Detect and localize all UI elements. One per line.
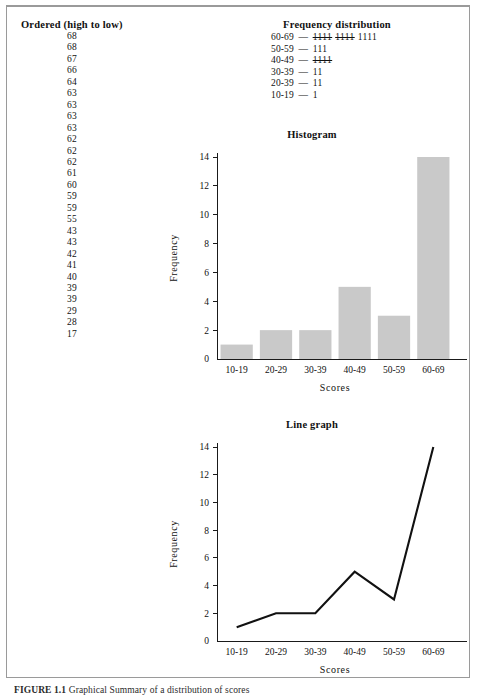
frequency-bin-label: 10-19 xyxy=(271,90,294,100)
histogram-bar xyxy=(221,345,253,359)
histogram-bar xyxy=(299,330,331,359)
histogram-bar xyxy=(339,287,371,359)
ordered-scores-title: Ordered (high to low) xyxy=(21,19,201,30)
line-graph-chart: Line graph 02468101214Frequency10-1920-2… xyxy=(157,419,467,681)
ordered-score-item: 66 xyxy=(67,65,201,76)
tally-remainder: 1111 xyxy=(358,32,378,42)
frequency-row-dash: — xyxy=(294,78,313,88)
y-tick-label: 14 xyxy=(200,152,210,162)
x-tick-label: 20-29 xyxy=(265,647,287,657)
x-tick-label: 50-59 xyxy=(383,365,405,375)
frequency-row-dash: — xyxy=(294,67,313,77)
frequency-distribution-row: 30-39 — 11 xyxy=(271,67,461,79)
frequency-distribution-row: 20-39 — 11 xyxy=(271,78,461,90)
x-axis-title: Scores xyxy=(320,664,350,675)
frequency-row-dash: — xyxy=(294,44,313,54)
ordered-score-item: 67 xyxy=(67,54,201,65)
x-tick-label: 10-19 xyxy=(226,647,248,657)
tally-group-of-five: 1111 xyxy=(313,55,333,65)
y-axis-title: Frequency xyxy=(168,520,179,568)
frequency-distribution-rows: 60-69 — 11111111111150-59 — 11140-49 — 1… xyxy=(221,32,461,102)
tally-group-of-five: 1111 xyxy=(313,32,333,42)
frequency-distribution-row: 50-59 — 111 xyxy=(271,44,461,56)
x-tick-label: 30-39 xyxy=(304,647,326,657)
x-tick-label: 10-19 xyxy=(226,365,248,375)
x-tick-label: 60-69 xyxy=(422,365,444,375)
tally-remainder: 111 xyxy=(313,44,328,54)
histogram-chart: Histogram 02468101214Frequency10-1920-29… xyxy=(157,129,467,399)
line-graph-series xyxy=(237,447,434,627)
y-tick-label: 6 xyxy=(204,268,209,278)
x-tick-label: 40-49 xyxy=(344,365,366,375)
tally-group-of-five: 1111 xyxy=(335,32,355,42)
y-tick-label: 6 xyxy=(204,553,209,563)
ordered-score-item: 68 xyxy=(67,42,201,53)
frequency-bin-label: 30-39 xyxy=(271,67,294,77)
y-tick-label: 10 xyxy=(200,210,210,220)
y-axis-title: Frequency xyxy=(168,234,179,282)
y-tick-label: 12 xyxy=(200,181,210,191)
figure-caption-label: FIGURE 1.1 xyxy=(14,685,66,695)
frequency-distribution-row: 60-69 — 111111111111 xyxy=(271,32,461,44)
tally-remainder: 1 xyxy=(313,90,318,100)
ordered-score-item: 63 xyxy=(67,111,201,122)
frequency-distribution-row: 10-19 — 1 xyxy=(271,90,461,102)
tally-remainder: 11 xyxy=(313,78,323,88)
y-tick-label: 12 xyxy=(200,470,210,480)
line-graph-plot: 02468101214Frequency10-1920-2930-3940-49… xyxy=(157,419,467,681)
y-tick-label: 2 xyxy=(204,326,209,336)
histogram-bar xyxy=(378,316,410,359)
y-tick-label: 0 xyxy=(204,354,209,364)
frequency-bin-label: 40-49 xyxy=(271,55,294,65)
figure-page-frame: Ordered (high to low) 686867666463636363… xyxy=(6,5,470,678)
figure-caption: FIGURE 1.1 Graphical Summary of a distri… xyxy=(14,684,464,696)
frequency-distribution-column: Frequency distribution 60-69 — 111111111… xyxy=(221,19,461,102)
x-tick-label: 20-29 xyxy=(265,365,287,375)
y-tick-label: 8 xyxy=(204,239,209,249)
histogram-bar xyxy=(260,330,292,359)
x-axis-title: Scores xyxy=(320,382,350,393)
tally-remainder: 11 xyxy=(313,67,323,77)
x-tick-label: 30-39 xyxy=(304,365,326,375)
x-tick-label: 60-69 xyxy=(422,647,444,657)
frequency-distribution-title: Frequency distribution xyxy=(221,19,461,30)
frequency-row-dash: — xyxy=(294,32,313,42)
y-tick-label: 0 xyxy=(204,636,209,646)
ordered-score-item: 64 xyxy=(67,77,201,88)
x-tick-label: 50-59 xyxy=(383,647,405,657)
frequency-distribution-row: 40-49 — 1111 xyxy=(271,55,461,67)
frequency-bin-label: 60-69 xyxy=(271,32,294,42)
histogram-bar xyxy=(417,157,449,359)
frequency-row-dash: — xyxy=(294,90,313,100)
frequency-bin-label: 50-59 xyxy=(271,44,294,54)
y-tick-label: 14 xyxy=(200,442,210,452)
y-tick-label: 2 xyxy=(204,609,209,619)
ordered-score-item: 63 xyxy=(67,100,201,111)
y-tick-label: 8 xyxy=(204,526,209,536)
x-tick-label: 40-49 xyxy=(344,647,366,657)
ordered-score-item: 63 xyxy=(67,88,201,99)
figure-caption-text: Graphical Summary of a distribution of s… xyxy=(69,685,250,695)
y-tick-label: 4 xyxy=(204,581,209,591)
ordered-score-item: 68 xyxy=(67,31,201,42)
frequency-row-dash: — xyxy=(294,55,313,65)
frequency-bin-label: 20-39 xyxy=(271,78,294,88)
y-tick-label: 10 xyxy=(200,498,210,508)
y-tick-label: 4 xyxy=(204,297,209,307)
histogram-plot: 02468101214Frequency10-1920-2930-3940-49… xyxy=(157,129,467,399)
